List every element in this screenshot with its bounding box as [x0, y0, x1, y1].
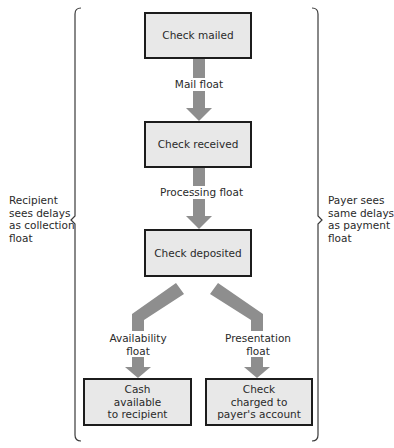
right-brace-note: Payer sees same delays as payment float: [328, 194, 394, 244]
note-line: as payment: [328, 219, 394, 232]
node-label-line: Check: [243, 383, 275, 396]
edge-label-line: Presentation: [225, 332, 291, 345]
node-check-charged: Check charged to payer's account: [205, 378, 313, 426]
note-line: as collection: [9, 219, 75, 232]
node-label: Check received: [158, 138, 239, 151]
right-brace: [312, 8, 322, 441]
node-check-deposited: Check deposited: [144, 229, 252, 277]
node-label-line: charged to: [231, 396, 288, 409]
note-line: sees delays: [9, 207, 75, 220]
node-cash-available: Cash available to recipient: [83, 378, 192, 426]
arrow-presentation-float: [210, 283, 270, 378]
edge-label-presentation-float: Presentation float: [225, 332, 291, 357]
edge-label-line: float: [108, 345, 168, 358]
node-check-received: Check received: [144, 121, 252, 168]
node-label: Check mailed: [162, 29, 233, 42]
node-label-line: Cash: [125, 383, 151, 396]
note-line: float: [328, 232, 394, 245]
left-brace-note: Recipient sees delays as collection floa…: [9, 194, 75, 244]
arrow-availability-float: [125, 283, 184, 378]
node-check-mailed: Check mailed: [144, 12, 252, 59]
node-label-line: to recipient: [108, 408, 168, 421]
edge-label-line: Availability: [108, 332, 168, 345]
note-line: Recipient: [9, 194, 75, 207]
note-line: same delays: [328, 207, 394, 220]
node-label-line: available: [114, 396, 161, 409]
edge-label-mail-float: Mail float: [172, 78, 226, 91]
node-label: Check deposited: [154, 247, 241, 260]
edge-label-processing-float: Processing float: [160, 186, 238, 199]
node-label-line: payer's account: [217, 408, 301, 421]
note-line: Payer sees: [328, 194, 394, 207]
edge-label-line: float: [225, 345, 291, 358]
edge-label-availability-float: Availability float: [108, 332, 168, 357]
note-line: float: [9, 232, 75, 245]
